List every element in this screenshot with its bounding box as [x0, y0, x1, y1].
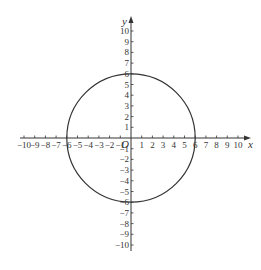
x-tick-label: −8 [41, 140, 51, 150]
y-tick-label: 1 [125, 122, 130, 132]
y-tick-label: 6 [125, 69, 130, 79]
y-tick-label: −4 [119, 176, 129, 186]
y-tick-label: 3 [125, 101, 130, 111]
x-tick-label: 7 [204, 140, 209, 150]
x-tick-label: −6 [62, 140, 72, 150]
y-tick-label: 2 [125, 112, 130, 122]
x-tick-label: −9 [30, 140, 40, 150]
y-tick-label: −5 [119, 187, 129, 197]
y-tick-label: −7 [119, 208, 129, 218]
x-tick-label: −2 [105, 140, 115, 150]
x-tick-label: −4 [83, 140, 93, 150]
coordinate-plane: −10−9−8−7−6−5−4−3−2−112345678910−10−9−8−… [0, 0, 261, 270]
x-tick-label: −3 [94, 140, 104, 150]
y-tick-label: −2 [119, 154, 129, 164]
labels: −10−9−8−7−6−5−4−3−2−112345678910−10−9−8−… [17, 15, 253, 250]
x-tick-label: 9 [225, 140, 230, 150]
x-tick-label: 6 [193, 140, 198, 150]
y-tick-label: 4 [125, 90, 130, 100]
x-tick-label: 8 [214, 140, 219, 150]
y-tick-label: −8 [119, 219, 129, 229]
y-tick-label: −6 [119, 197, 129, 207]
x-tick-label: 5 [182, 140, 187, 150]
y-tick-label: 10 [120, 26, 130, 36]
origin-label: O [121, 138, 129, 150]
y-tick-label: −10 [115, 240, 130, 250]
y-tick-label: 5 [125, 80, 130, 90]
x-tick-label: 2 [150, 140, 155, 150]
x-tick-label: −5 [73, 140, 83, 150]
y-axis-label: y [121, 15, 127, 27]
axes [20, 16, 251, 251]
x-tick-label: −7 [51, 140, 61, 150]
x-tick-label: 4 [172, 140, 177, 150]
y-tick-label: 9 [125, 37, 130, 47]
y-tick-label: 8 [125, 47, 130, 57]
x-tick-label: 10 [234, 140, 244, 150]
x-tick-label: 1 [139, 140, 144, 150]
x-tick-label: 3 [161, 140, 166, 150]
y-tick-label: 7 [125, 58, 130, 68]
y-axis-arrow-icon [129, 16, 134, 23]
y-tick-label: −3 [119, 165, 129, 175]
y-tick-label: −9 [119, 229, 129, 239]
x-axis-label: x [247, 138, 253, 150]
